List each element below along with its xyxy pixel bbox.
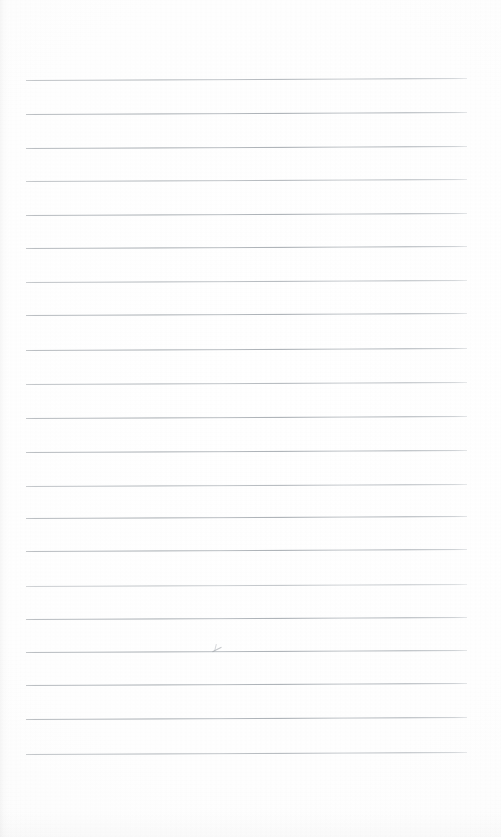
ruled-line-stroke bbox=[26, 246, 467, 249]
ruled-line-stroke bbox=[26, 450, 467, 453]
ruled-line bbox=[26, 616, 467, 622]
ruled-line bbox=[26, 312, 467, 318]
ruled-line bbox=[26, 381, 467, 387]
ruled-line bbox=[26, 751, 467, 757]
ruled-line bbox=[26, 415, 467, 421]
ruled-line bbox=[26, 178, 467, 184]
ruled-line bbox=[26, 649, 467, 655]
ruled-line-stroke bbox=[26, 112, 467, 115]
ruled-line-stroke bbox=[26, 717, 467, 720]
ruled-line bbox=[26, 716, 467, 722]
ruled-line-stroke bbox=[26, 382, 467, 385]
ruled-line-stroke bbox=[26, 179, 467, 182]
ruled-line bbox=[26, 682, 467, 688]
ruled-line-stroke bbox=[26, 484, 467, 487]
lined-paper-page bbox=[0, 0, 501, 837]
ruled-line-stroke bbox=[26, 516, 467, 519]
ruled-line bbox=[26, 145, 467, 151]
ruled-line bbox=[26, 548, 467, 554]
ruled-line-stroke bbox=[26, 752, 467, 755]
ruled-line bbox=[26, 279, 467, 285]
ruled-line-stroke bbox=[26, 549, 467, 552]
ruled-line-stroke bbox=[26, 584, 467, 587]
ruled-line-stroke bbox=[26, 213, 467, 216]
sheet-left-edge-shadow bbox=[0, 0, 10, 837]
ruled-line-stroke bbox=[26, 617, 467, 620]
ruled-line bbox=[26, 347, 467, 353]
ruled-line-stroke bbox=[26, 650, 467, 653]
ruled-line bbox=[26, 77, 467, 83]
sheet-bottom-edge-shadow bbox=[0, 811, 501, 837]
ruled-line bbox=[26, 245, 467, 251]
ruled-line-stroke bbox=[26, 78, 467, 81]
ruled-line-stroke bbox=[26, 280, 467, 283]
ruled-line bbox=[26, 583, 467, 589]
ruled-line bbox=[26, 483, 467, 489]
ruled-line-stroke bbox=[26, 146, 467, 149]
ruled-line-stroke bbox=[26, 683, 467, 686]
ruled-line bbox=[26, 212, 467, 218]
ruled-line-stroke bbox=[26, 416, 467, 419]
ruled-line bbox=[26, 515, 467, 521]
ruled-line bbox=[26, 111, 467, 117]
ruled-line-stroke bbox=[26, 313, 467, 316]
ruled-line-stroke bbox=[26, 348, 467, 351]
ruled-line bbox=[26, 449, 467, 455]
